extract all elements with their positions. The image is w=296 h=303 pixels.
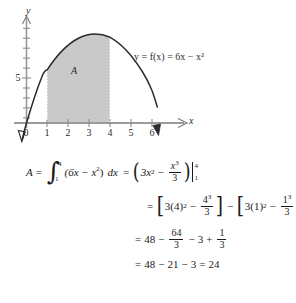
eq2-bracket-open-2: [	[237, 197, 244, 215]
eq2-bracket-open: [	[157, 197, 164, 215]
graph-figure: y x A y = f(x) = 6x − x² 5 0 1 2 3 4 5 6	[0, 0, 296, 150]
eq2-frac1-num-sup: 3	[208, 193, 212, 201]
eq1-equals: =	[36, 166, 42, 178]
equation-line-4: = 48 − 21 − 3 = 24	[132, 258, 219, 270]
eq1-lhs: A	[26, 166, 33, 178]
eq4-result: 24	[208, 258, 219, 270]
x-tick-label-5: 5	[125, 128, 137, 138]
eq3-minus2: −	[188, 233, 194, 245]
x-tick-label-0: 0	[20, 128, 32, 138]
region-label-A: A	[71, 66, 77, 76]
figure-page: y x A y = f(x) = 6x − x² 5 0 1 2 3 4 5 6…	[0, 0, 296, 303]
eq4-equals: =	[135, 258, 141, 270]
eq2-frac2-num: 13	[281, 194, 294, 207]
eq1-dx: dx	[108, 166, 118, 178]
eq3-frac1-num: 64	[169, 228, 183, 240]
eq3-minus1: −	[158, 233, 164, 245]
eq4-a: 48	[144, 258, 155, 270]
eq1-integrand-open: (6x − x2)	[64, 165, 103, 178]
eq2-minus2: −	[270, 200, 276, 212]
integral-symbol-group: ∫ 4 1	[47, 161, 61, 182]
equation-line-3: = 48 − 64 3 − 3 + 1 3	[132, 228, 228, 250]
eq3-frac1-den: 3	[172, 240, 181, 251]
eq2-bracket-close: ]	[216, 197, 223, 215]
y-tick-label-5: 5	[12, 73, 24, 83]
integral-upper-limit: 4	[58, 160, 62, 168]
eval-limits: 4 1	[194, 162, 198, 182]
x-axis-label: x	[189, 116, 193, 126]
eq2-minus1: −	[190, 200, 196, 212]
eq4-b: 21	[167, 258, 178, 270]
eval-upper-limit: 4	[194, 162, 198, 170]
eq1-integrand-text: (6x − x	[64, 166, 96, 178]
integral-limits: 4 1	[57, 161, 61, 182]
eq1-paren-open: (	[133, 163, 140, 181]
eq1-term1-sup: 2	[151, 168, 155, 176]
eq4-minus2: −	[181, 258, 187, 270]
eq4-minus1: −	[158, 258, 164, 270]
eq1-term1: 3x	[141, 166, 151, 178]
eq1-frac-den: 3	[170, 173, 179, 184]
shaded-area-A	[47, 34, 110, 123]
eq2-equals: =	[147, 200, 153, 212]
y-axis-label: y	[26, 6, 30, 16]
eq3-b: 3	[198, 233, 204, 245]
eq1-evaluation-bar: 4 1	[192, 162, 198, 182]
eq1-minus: −	[158, 166, 164, 178]
eq3-fraction1: 64 3	[169, 228, 183, 250]
eval-bar-line	[192, 162, 193, 182]
eq2-term1-sup: 2	[183, 202, 187, 210]
eq1-integrand-close: )	[100, 166, 104, 178]
eq1-frac-num: x3	[169, 160, 181, 173]
eq2-term2: 3(1)	[245, 200, 263, 212]
eq3-fraction2: 1 3	[217, 228, 226, 250]
eq1-equals2: =	[123, 166, 129, 178]
eq3-frac2-num: 1	[217, 228, 226, 240]
eq1-antiderivative: 3x2 − x3 3	[141, 160, 183, 183]
integral-lower-limit: 1	[55, 175, 59, 183]
function-label: y = f(x) = 6x − x²	[134, 52, 204, 62]
eq2-first-group: 3(4)2 − 43 3	[165, 194, 216, 217]
eq2-frac2-num-sup: 3	[288, 193, 292, 201]
eq3-frac2-den: 3	[217, 240, 226, 251]
eq4-equals2: =	[199, 258, 205, 270]
eq1-fraction: x3 3	[169, 160, 181, 183]
eval-lower-limit: 1	[194, 174, 198, 182]
eq3-plus: +	[206, 233, 212, 245]
eq4-c: 3	[191, 258, 197, 270]
x-tick-label-3: 3	[83, 128, 95, 138]
eq2-fraction2: 13 3	[281, 194, 294, 217]
x-tick-label-4: 4	[104, 128, 116, 138]
eq2-second-group: 3(1)2 − 13 3	[245, 194, 296, 217]
eq2-term1: 3(4)	[165, 200, 183, 212]
equation-line-1: A = ∫ 4 1 (6x − x2) dx = ( 3x2 − x3 3	[26, 160, 198, 183]
equation-line-2: = [ 3(4)2 − 43 3 ] − [ 3(1)2 − 13 3	[144, 194, 296, 217]
eq2-minus-mid: −	[227, 200, 233, 212]
eq3-a: 48	[144, 233, 155, 245]
eq2-frac1-den: 3	[203, 207, 212, 218]
eq1-frac-num-sup: 3	[175, 159, 179, 167]
eq2-frac1-num: 43	[201, 194, 214, 207]
eq2-term2-sup: 2	[263, 202, 267, 210]
eq3-equals: =	[135, 233, 141, 245]
x-tick-label-2: 2	[62, 128, 74, 138]
eq2-frac2-den: 3	[283, 207, 292, 218]
eq1-paren-close: )	[184, 163, 191, 181]
eq2-fraction1: 43 3	[201, 194, 214, 217]
x-tick-label-1: 1	[41, 128, 53, 138]
x-tick-label-6: 6	[146, 128, 158, 138]
math-derivation: A = ∫ 4 1 (6x − x2) dx = ( 3x2 − x3 3	[0, 150, 296, 303]
